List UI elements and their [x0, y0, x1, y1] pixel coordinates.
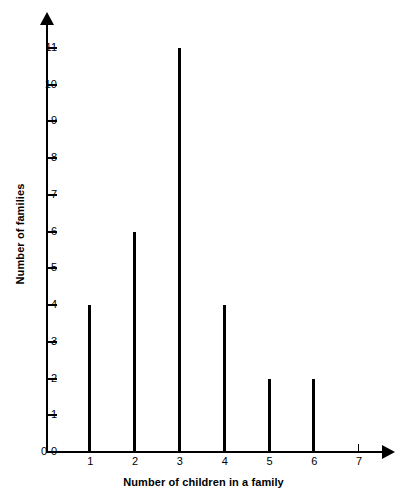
y-tick-label: 4 — [37, 299, 57, 310]
x-axis-arrow-icon — [382, 445, 395, 459]
y-tick: 8 — [0, 157, 57, 159]
y-tick: 3 — [0, 341, 57, 343]
y-axis-title: Number of families — [14, 154, 26, 314]
y-tick-label: 3 — [37, 336, 57, 347]
x-tick-label: 5 — [258, 456, 282, 467]
y-tick-label: 8 — [37, 152, 57, 163]
x-tick-mark — [358, 444, 359, 451]
y-tick-label: 2 — [37, 373, 57, 384]
y-tick: 9 — [0, 120, 57, 122]
y-tick-label: 1 — [37, 409, 57, 420]
bar — [178, 48, 181, 452]
y-tick: 11 — [0, 47, 57, 49]
y-tick: 7 — [0, 194, 57, 196]
x-axis-title: Number of children in a family — [0, 476, 407, 488]
y-tick: 5 — [0, 267, 57, 269]
bar — [133, 232, 136, 452]
y-tick-label: 6 — [37, 226, 57, 237]
origin-label: 0 — [33, 446, 47, 457]
bar — [268, 379, 271, 452]
y-tick-label: 10 — [37, 79, 57, 90]
bar — [88, 305, 91, 452]
y-tick: 10 — [0, 84, 57, 86]
y-tick-label: 7 — [37, 189, 57, 200]
x-tick-label: 3 — [168, 456, 192, 467]
y-tick-label: 11 — [37, 42, 57, 53]
bar — [312, 379, 315, 452]
y-tick: 6 — [0, 231, 57, 233]
y-tick: 2 — [0, 378, 57, 380]
x-tick-label: 6 — [302, 456, 326, 467]
x-tick-label: 7 — [347, 456, 371, 467]
y-tick: 1 — [0, 414, 57, 416]
chart-canvas: 01234567891011 1234567 Number of familie… — [0, 0, 407, 497]
x-axis-line — [46, 451, 384, 453]
y-tick-label: 5 — [37, 262, 57, 273]
x-tick-label: 1 — [78, 456, 102, 467]
y-tick-label: 9 — [37, 115, 57, 126]
y-tick: 4 — [0, 304, 57, 306]
x-tick-label: 2 — [123, 456, 147, 467]
bar — [223, 305, 226, 452]
y-tick: 0 — [0, 451, 57, 453]
y-axis-arrow-icon — [40, 12, 54, 25]
x-tick-label: 4 — [213, 456, 237, 467]
